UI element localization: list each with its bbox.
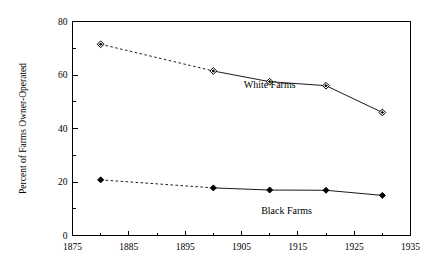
data-point-marker bbox=[267, 187, 273, 193]
data-point-marker bbox=[379, 192, 385, 198]
data-point-marker bbox=[98, 177, 104, 183]
data-point-marker-center bbox=[325, 85, 327, 87]
x-axis-tick-label: 1875 bbox=[63, 242, 82, 252]
series-line bbox=[213, 188, 382, 195]
y-axis-tick-label: 20 bbox=[58, 177, 68, 187]
series-line-segment-first bbox=[101, 44, 214, 71]
y-axis-title: Percent of Farms Owner-Operated bbox=[18, 63, 28, 194]
x-axis-tick-label: 1895 bbox=[176, 242, 195, 252]
chart-container: 1875188518951905191519251935020406080Per… bbox=[0, 0, 438, 271]
data-point-marker-center bbox=[381, 111, 383, 113]
x-axis-tick-label: 1915 bbox=[288, 242, 307, 252]
data-point-marker bbox=[323, 187, 329, 193]
series-label-white-farms: White Farms bbox=[244, 79, 296, 90]
y-axis-tick-label: 0 bbox=[63, 231, 68, 241]
plot-frame bbox=[73, 22, 411, 236]
x-axis-tick-label: 1885 bbox=[119, 242, 138, 252]
data-point-marker bbox=[210, 185, 216, 191]
series-line-segment-first bbox=[101, 180, 214, 188]
y-axis-tick-label: 60 bbox=[58, 70, 68, 80]
series-line bbox=[213, 71, 382, 112]
y-axis-tick-label: 80 bbox=[58, 17, 68, 27]
x-axis-tick-label: 1925 bbox=[345, 242, 364, 252]
data-point-marker-center bbox=[212, 70, 214, 72]
y-axis-tick-label: 40 bbox=[58, 124, 68, 134]
data-point-marker-center bbox=[99, 43, 101, 45]
series-label-black-farms: Black Farms bbox=[261, 205, 312, 216]
x-axis-tick-label: 1905 bbox=[232, 242, 251, 252]
x-axis-tick-label: 1935 bbox=[401, 242, 420, 252]
line-chart: 1875188518951905191519251935020406080Per… bbox=[0, 0, 438, 271]
